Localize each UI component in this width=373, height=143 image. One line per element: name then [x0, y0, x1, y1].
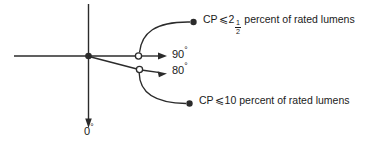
ray-80-angle-value: 80 [172, 64, 184, 76]
callout-upper-endpoint-dot [190, 19, 196, 25]
callout-lower-leader-arc [139, 73, 186, 104]
callout-lower-prefix: CP [199, 94, 214, 106]
ray-90-node-marker [135, 53, 141, 59]
ray-80-arrowhead-icon [158, 72, 167, 78]
callout-upper-fraction-denominator: 2 [235, 27, 241, 35]
ray-80-degree-symbol: ° [184, 61, 187, 71]
vertical-axis-label: 0° [84, 126, 94, 137]
vertical-axis-degree-symbol: ° [90, 122, 93, 132]
ray-80-line [89, 57, 137, 70]
ray-90-degree-symbol: ° [184, 45, 187, 55]
callout-upper-fraction: 12 [235, 19, 241, 35]
callout-lower-label: CP⩽10 percent of rated lumens [199, 95, 350, 106]
ray-90-arrowhead-icon [158, 53, 167, 60]
ray-90-angle-label: 90° [172, 49, 188, 60]
callout-lower-endpoint-dot [186, 100, 192, 106]
ray-80-node-marker [136, 66, 142, 72]
callout-upper-value-whole: 2 [229, 13, 235, 25]
callout-lower-relation: ⩽ [214, 94, 225, 106]
ray-80-arrow-shaft [143, 70, 160, 72]
ray-90-angle-value: 90 [172, 48, 184, 60]
callout-upper-prefix: CP [203, 13, 218, 25]
callout-upper-label: CP⩽212 percent of rated lumens [203, 14, 355, 35]
callout-lower-value-whole: 10 [225, 94, 237, 106]
callout-upper-fraction-numerator: 1 [235, 19, 241, 26]
ray-80-angle-label: 80° [172, 65, 188, 76]
diagram-canvas: CP⩽212 percent of rated lumens CP⩽10 per… [0, 0, 373, 143]
callout-upper-suffix: percent of rated lumens [244, 13, 354, 25]
callout-lower-suffix: percent of rated lumens [239, 94, 349, 106]
callout-upper-relation: ⩽ [218, 13, 229, 25]
